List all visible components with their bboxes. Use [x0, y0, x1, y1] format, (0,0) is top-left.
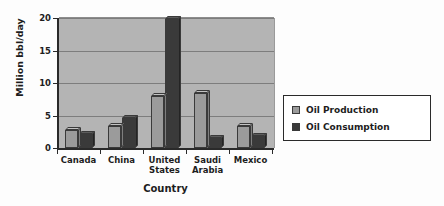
bar-side-face	[207, 90, 210, 148]
legend-label-oil-consumption: Oil Consumption	[306, 122, 390, 132]
bar-side-face	[164, 93, 167, 148]
x-axis-line	[57, 148, 274, 150]
legend-label-oil-production: Oil Production	[306, 105, 378, 115]
x-axis-tick	[186, 150, 187, 154]
bar-production	[194, 93, 207, 148]
y-axis-tick-label: 10	[25, 79, 51, 88]
x-axis-label-mexico: Mexico	[229, 156, 272, 166]
plot-right-edge	[274, 18, 275, 148]
bar-production	[108, 126, 121, 148]
bar-side-face	[250, 123, 253, 148]
y-axis-tick-label: 15	[25, 47, 51, 56]
bar-side-face	[92, 131, 95, 148]
x-axis-label-united-states: United States	[143, 156, 186, 175]
oil-production-consumption-chart: Million bbl/day 05101520 CanadaChinaUnit…	[0, 0, 444, 206]
y-axis-tick-label: 5	[25, 112, 51, 121]
bar-front-face	[108, 126, 121, 148]
bar-front-face	[65, 130, 78, 148]
legend-item-oil-consumption[interactable]: Oil Consumption	[292, 118, 430, 135]
chart-legend: Oil Production Oil Consumption	[283, 95, 431, 141]
legend-item-oil-production[interactable]: Oil Production	[292, 101, 430, 118]
x-axis-tick	[229, 150, 230, 154]
bar-side-face	[178, 16, 181, 148]
bar-front-face	[151, 96, 164, 148]
bar-side-face	[121, 123, 124, 148]
x-axis-title: Country	[57, 183, 274, 194]
y-axis-title: Million bbl/day	[14, 10, 25, 106]
legend-swatch-consumption-icon	[292, 123, 300, 131]
x-axis-tick	[272, 150, 273, 154]
bar-front-face	[194, 93, 207, 148]
bar-side-face	[78, 127, 81, 148]
x-axis-label-canada: Canada	[57, 156, 100, 166]
bar-production	[151, 96, 164, 148]
bar-side-face	[135, 115, 138, 148]
x-axis-tick	[100, 150, 101, 154]
x-axis-label-saudi-arabia: Saudi Arabia	[186, 156, 229, 175]
x-axis-label-china: China	[100, 156, 143, 166]
x-axis-tick	[57, 150, 58, 154]
chart-title	[0, 0, 444, 1]
bar-front-face	[237, 126, 250, 148]
y-axis-tick-label: 0	[25, 144, 51, 153]
bar-production	[65, 130, 78, 148]
plot-area	[57, 18, 274, 148]
y-axis-tick-label: 20	[25, 14, 51, 23]
x-axis-tick	[143, 150, 144, 154]
legend-swatch-production-icon	[292, 106, 300, 114]
bar-production	[237, 126, 250, 148]
